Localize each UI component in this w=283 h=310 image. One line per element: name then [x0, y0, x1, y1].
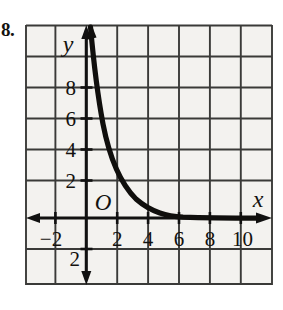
origin-label: O	[95, 190, 112, 215]
y-tick-label-neg2: 2	[70, 247, 81, 271]
y-axis-letter-label: y	[61, 31, 74, 57]
y-tick-label-6: 6	[66, 107, 77, 131]
y-tick-label-8: 8	[66, 76, 77, 100]
x-axis-letter-label: x	[252, 186, 264, 212]
coordinate-graph: 8 6 4 2 2 −2 2 4 6 8 10 y x O	[0, 0, 283, 310]
y-tick-label-2: 2	[66, 169, 77, 193]
x-tick-label-8: 8	[205, 227, 216, 251]
exponential-decay-figure: 8.	[0, 0, 283, 310]
x-tick-label-10: 10	[232, 227, 253, 251]
x-tick-label-4: 4	[143, 227, 154, 251]
y-tick-label-4: 4	[66, 138, 77, 162]
x-tick-label-neg2: −2	[40, 227, 62, 251]
x-tick-label-6: 6	[174, 227, 185, 251]
x-tick-label-2: 2	[112, 227, 123, 251]
